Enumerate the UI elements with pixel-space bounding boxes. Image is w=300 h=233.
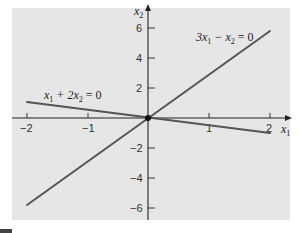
origin-point <box>145 115 151 121</box>
x-tick-label: −2 <box>20 122 33 134</box>
y-axis-arrow-icon <box>145 4 151 11</box>
equation-label-line1: 3x1 − x2 = 0 <box>195 30 254 46</box>
y-axis-label: x2 <box>133 4 143 20</box>
chart-figure: −2 −1 1 2 6 4 2 −2 −4 −6 x1 x2 3x1 − x2 … <box>0 0 300 233</box>
y-tick-label: −2 <box>130 142 143 154</box>
y-tick-label: 4 <box>136 52 142 64</box>
x-tick-label: −1 <box>82 122 95 134</box>
y-tick-label: 2 <box>136 82 142 94</box>
y-tick-label: 6 <box>136 22 142 34</box>
y-tick-label: −6 <box>130 202 143 214</box>
y-tick-label: −4 <box>130 172 143 184</box>
corner-mark <box>0 229 12 233</box>
x-tick-label: 1 <box>206 122 212 134</box>
